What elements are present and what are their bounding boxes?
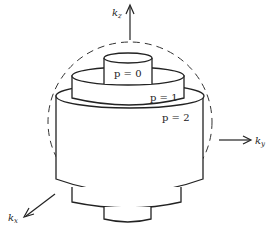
- cylinder-p0-lower: [104, 207, 151, 222]
- ky-axis-arrow: [219, 136, 251, 144]
- landau-cylinders-diagram: kz ky kx p = 0 p = 1 p = 2: [0, 0, 269, 230]
- kx-axis-arrow: [24, 194, 55, 217]
- label-p2: p = 2: [162, 112, 190, 123]
- label-p1: p = 1: [150, 92, 178, 103]
- kz-axis-arrow: [126, 5, 134, 40]
- kx-label: kx: [8, 212, 18, 225]
- ky-label: ky: [255, 135, 266, 148]
- kz-label: kz: [112, 7, 122, 20]
- cylinder-p1-lower: [72, 187, 181, 208]
- label-p0: p = 0: [114, 68, 142, 79]
